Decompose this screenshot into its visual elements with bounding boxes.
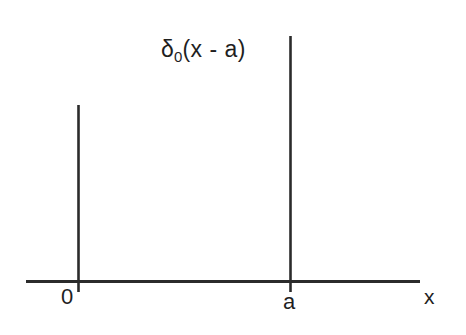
function-label: δ0(x - a) (161, 38, 246, 64)
delta-symbol: δ (161, 36, 174, 62)
delta-argument: (x - a) (182, 36, 246, 62)
figure-canvas: δ0(x - a) 0 a x (0, 0, 466, 335)
tick-label-zero: 0 (61, 286, 73, 308)
tick-label-a: a (283, 291, 295, 313)
x-axis-label: x (424, 286, 435, 307)
